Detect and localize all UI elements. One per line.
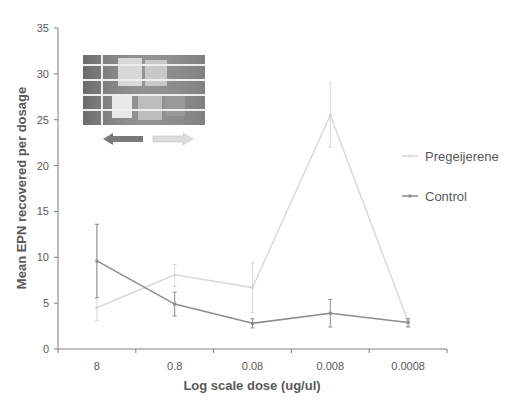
y-tick-label: 15 (37, 205, 49, 217)
inset-photo (83, 55, 205, 125)
x-tick-label: 0.8 (167, 360, 182, 372)
x-tick-label: 0.008 (317, 360, 345, 372)
y-tick-label: 5 (43, 297, 49, 309)
legend: PregeijereneControl (402, 149, 499, 204)
y-tick-label: 25 (37, 114, 49, 126)
x-tick-label: 0.0008 (391, 360, 425, 372)
x-tick-label: 8 (94, 360, 100, 372)
y-tick-label: 0 (43, 343, 49, 355)
legend-item: Pregeijerene (425, 149, 499, 164)
line-chart: 0510152025303580.80.080.0080.0008 Log sc… (0, 0, 525, 409)
y-tick-label: 10 (37, 251, 49, 263)
left-arrow-icon (103, 133, 143, 145)
x-tick-label: 0.08 (242, 360, 263, 372)
legend-item: Control (425, 189, 467, 204)
right-arrow-icon (153, 133, 193, 145)
y-tick-label: 20 (37, 160, 49, 172)
y-tick-label: 30 (37, 68, 49, 80)
y-axis-label: Mean EPN recovered per dosage (14, 87, 29, 289)
y-tick-label: 35 (37, 22, 49, 34)
x-axis-label: Log scale dose (ug/ul) (183, 378, 320, 393)
